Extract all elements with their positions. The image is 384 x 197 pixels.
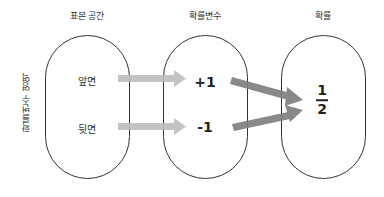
outcome-tails: 뒷면: [78, 121, 96, 136]
arrow-plus-one-to-probability: [230, 77, 303, 106]
outcome-heads: 앞면: [78, 73, 96, 88]
random-variable-container: [164, 36, 248, 179]
value-minus-one: -1: [197, 119, 213, 135]
fraction-denominator: 2: [317, 102, 327, 117]
arrow-heads-to-plus-one: [118, 70, 186, 87]
probability-fraction: 1 2: [316, 83, 328, 117]
fraction-numerator: 1: [317, 83, 327, 98]
arrow-tails-to-minus-one: [118, 118, 186, 135]
value-plus-one: +1: [194, 74, 215, 90]
sample-space-container: [46, 36, 130, 179]
arrow-minus-one-to-probability: [232, 105, 303, 131]
